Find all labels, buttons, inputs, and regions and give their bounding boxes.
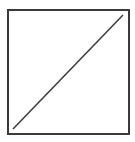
diagram-svg	[0, 0, 135, 142]
diagonal-line	[13, 15, 123, 129]
diagram-canvas	[0, 0, 135, 142]
